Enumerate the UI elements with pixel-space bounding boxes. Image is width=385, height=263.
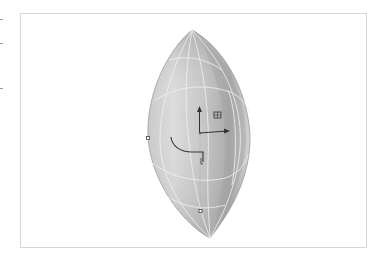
pivot-point-icon[interactable] [199,132,201,134]
control-point-handle[interactable] [199,210,202,213]
scene-canvas[interactable] [0,0,385,263]
control-point-handle[interactable] [147,137,150,140]
